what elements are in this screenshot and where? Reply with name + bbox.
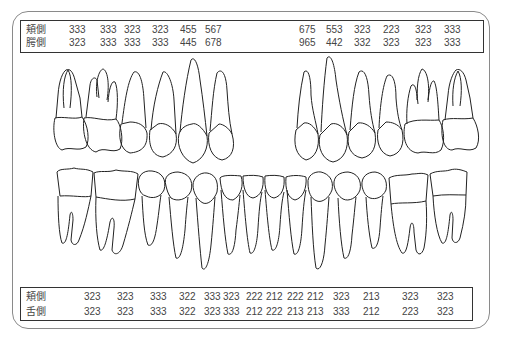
- upper-tooth-premolar-2-right: [378, 75, 403, 156]
- cell: 333: [223, 305, 240, 319]
- cell: 322: [179, 305, 196, 319]
- lower-lingual-row: 舌側 323 323 333 322 323 333 212 222 213 2…: [21, 305, 472, 319]
- lower-tooth-incisor-lateral: [220, 175, 242, 254]
- cell: 222: [287, 290, 304, 304]
- cell: 222: [246, 290, 263, 304]
- upper-tooth-molar-1-right: [404, 69, 444, 153]
- cell: 323: [117, 305, 134, 319]
- lower-tooth-molar-2-right: [430, 169, 467, 243]
- cell: 333: [333, 305, 350, 319]
- cell: 213: [287, 305, 304, 319]
- lower-tooth-premolar-1: [165, 172, 191, 258]
- cell: 213: [363, 290, 380, 304]
- cell: 212: [266, 290, 283, 304]
- lower-tooth-incisor-central: [243, 175, 263, 253]
- lower-tooth-molar-2: [57, 168, 93, 245]
- lower-tooth-premolar-2-right: [362, 172, 387, 248]
- cell: 212: [307, 290, 324, 304]
- upper-tooth-incisor-central: [295, 71, 319, 160]
- lower-tooth-incisor-central-right: [265, 175, 284, 250]
- cell: 333: [150, 305, 167, 319]
- upper-tooth-canine-right: [319, 57, 347, 162]
- lower-probing-table: 頬側 323 323 333 322 333 323 222 212 222 2…: [20, 287, 473, 321]
- row-label: 頬側: [26, 290, 46, 304]
- cell: 322: [179, 290, 196, 304]
- cell: 333: [150, 290, 167, 304]
- cell: 212: [246, 305, 263, 319]
- lower-tooth-premolar-2: [138, 171, 165, 245]
- cell: 323: [223, 290, 240, 304]
- lower-tooth-molar-1: [94, 170, 138, 254]
- cell: 323: [117, 290, 134, 304]
- lower-tooth-premolar-1-right: [334, 172, 361, 258]
- lower-tooth-incisor-lateral-right: [286, 176, 306, 255]
- lower-buccal-row: 頬側 323 323 333 322 333 323 222 212 222 2…: [21, 290, 472, 304]
- upper-tooth-incisor-lateral: [209, 71, 234, 160]
- cell: 212: [363, 305, 380, 319]
- cell: 333: [204, 290, 221, 304]
- cell: 213: [307, 305, 324, 319]
- upper-tooth-molar-1: [84, 69, 122, 152]
- lower-tooth-canine-right: [308, 172, 333, 269]
- upper-tooth-premolar-1: [150, 72, 177, 157]
- upper-tooth-premolar-2: [120, 72, 147, 153]
- row-label: 舌側: [26, 305, 46, 319]
- lower-tooth-molar-1-right: [389, 173, 428, 254]
- cell: 222: [266, 305, 283, 319]
- upper-tooth-canine: [178, 59, 207, 163]
- cell: 323: [84, 290, 101, 304]
- upper-tooth-premolar-1-right: [348, 71, 375, 158]
- lower-tooth-canine: [193, 173, 217, 269]
- cell: 323: [333, 290, 350, 304]
- cell: 323: [437, 305, 454, 319]
- cell: 323: [84, 305, 101, 319]
- cell: 323: [437, 290, 454, 304]
- cell: 323: [402, 290, 419, 304]
- upper-tooth-molar-2-right: [442, 69, 479, 150]
- upper-tooth-molar-2: [54, 69, 88, 150]
- cell: 323: [204, 305, 221, 319]
- cell: 223: [402, 305, 419, 319]
